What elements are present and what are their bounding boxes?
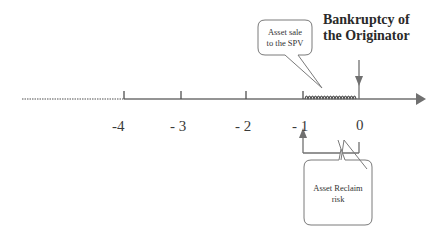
title-line-2: the Originator <box>323 28 410 44</box>
tick-label-minus-3: - 3 <box>170 118 186 135</box>
asset-sale-line-2: to the SPV <box>259 38 311 49</box>
reclaim-line-1: Asset Reclaim <box>304 183 372 194</box>
bankruptcy-arrow-icon <box>355 76 363 86</box>
reclaim-pointer-line-a <box>338 140 341 149</box>
tick-label-minus-2: - 2 <box>235 118 251 135</box>
tick-label-0: 0 <box>356 117 364 134</box>
asset-sale-callout-text: Asset sale to the SPV <box>259 27 311 49</box>
tick-label-minus-1: - 1 <box>292 118 308 135</box>
bankruptcy-title: Bankruptcy of the Originator <box>323 12 410 44</box>
reclaim-callout-text: Asset Reclaim risk <box>304 183 372 205</box>
axis-arrowhead-icon <box>416 93 426 105</box>
reclaim-line-2: risk <box>304 194 372 205</box>
asset-sale-line-1: Asset sale <box>259 27 311 38</box>
title-line-1: Bankruptcy of <box>323 12 410 28</box>
tick-label-minus-4: -4 <box>112 118 125 135</box>
